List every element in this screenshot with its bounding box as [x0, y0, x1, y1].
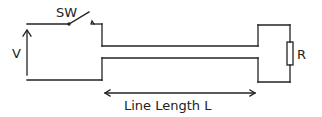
switch-contact-left-icon [68, 23, 70, 25]
switch-label: SW [56, 5, 77, 20]
circuit-diagram: SW V R Line Length L [0, 0, 322, 117]
line-length-label: Line Length L [124, 98, 212, 113]
resistor-icon [287, 42, 293, 65]
voltage-label: V [12, 46, 21, 61]
resistor-label: R [297, 47, 306, 62]
